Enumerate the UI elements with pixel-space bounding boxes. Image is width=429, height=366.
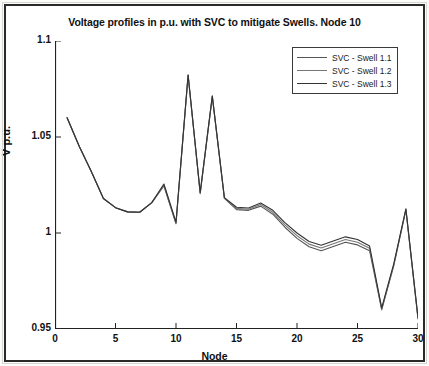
series-line-3 xyxy=(67,75,418,318)
x-tick-label: 20 xyxy=(282,333,312,344)
x-tick-label: 5 xyxy=(101,333,131,344)
y-tick-label: 1.1 xyxy=(11,34,51,45)
x-tick-label: 30 xyxy=(403,333,429,344)
legend-label: SVC - Swell 1.3 xyxy=(332,79,392,89)
legend-line-swatch xyxy=(297,57,327,58)
y-tick-label: 0.95 xyxy=(11,322,51,333)
legend-line-swatch xyxy=(297,83,327,84)
x-tick-label: 25 xyxy=(343,333,373,344)
x-tick-label: 0 xyxy=(40,333,70,344)
chart-frame: Voltage profiles in p.u. with SVC to mit… xyxy=(4,4,425,362)
legend-item-3[interactable]: SVC - Swell 1.3 xyxy=(297,77,392,90)
legend-item-1[interactable]: SVC - Swell 1.1 xyxy=(297,51,392,64)
series-line-1 xyxy=(67,76,418,319)
legend-line-swatch xyxy=(297,70,327,71)
chart-legend: SVC - Swell 1.1SVC - Swell 1.2SVC - Swel… xyxy=(292,47,398,94)
y-tick-label: 1 xyxy=(11,226,51,237)
x-tick-label: 10 xyxy=(161,333,191,344)
chart-title: Voltage profiles in p.u. with SVC to mit… xyxy=(6,16,423,28)
x-tick-label: 15 xyxy=(222,333,252,344)
legend-label: SVC - Swell 1.2 xyxy=(332,66,392,76)
legend-label: SVC - Swell 1.1 xyxy=(332,53,392,63)
series-line-2 xyxy=(67,75,418,318)
legend-item-2[interactable]: SVC - Swell 1.2 xyxy=(297,64,392,77)
x-axis-label: Node xyxy=(6,350,423,362)
chart-page: Voltage profiles in p.u. with SVC to mit… xyxy=(0,0,429,366)
y-tick-label: 1.05 xyxy=(11,130,51,141)
